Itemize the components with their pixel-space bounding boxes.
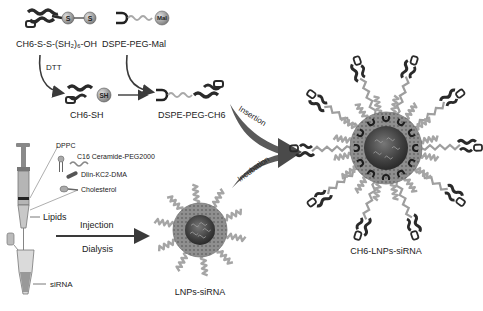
syringe-icon [16,143,30,258]
peg-ch6-chain [364,180,376,219]
peg-chain [159,240,176,252]
ch6-aptamer-icon [353,215,371,241]
dspe-anchor-icon [116,13,127,23]
lipid-peg-label: C16 Ceramide-PEG2000 [77,153,155,160]
dialysis-label: Dialysis [82,244,114,254]
ch6-sh-molecule: SH [66,86,111,103]
dspe-peg-ch6-molecule [156,81,223,100]
peg-lipid-icon [70,162,88,166]
peg-chain [356,177,367,193]
ch6-lnp-label: CH6-LNPs-siRNA [350,246,422,256]
ch6-aptamer-icon [405,214,423,240]
leader-cholesterol [30,190,78,210]
incubation-label: Incubation [236,155,271,184]
dtt-arrow [40,55,62,93]
peg-chain [224,209,241,221]
injection-label: Injection [80,220,114,230]
peg-chain [177,253,188,272]
ch6-ss-molecule: S S [26,10,96,27]
reactant-2-label: DSPE-PEG-Mal [102,39,166,49]
peg-chain [168,93,192,97]
ch6-aptamer-icon [349,56,367,82]
big-arrow-head [278,138,302,168]
leader-dppc [30,146,58,198]
ch6-aptamer-icon [304,89,330,112]
peg-ch6-chain [312,146,352,151]
ch6-aptamer-icon [66,86,92,103]
lipid-dlin-label: Dlin-KC2-DMA [81,171,127,178]
peg-chain [128,16,152,20]
lipids-label: Lipids [43,212,67,222]
sirna-core [364,126,408,170]
mal-to-product-arrow [127,55,152,92]
lipid-cholesterol-label: Cholesterol [81,186,117,193]
intermediate-label: CH6-SH [70,110,104,120]
peg-chain [420,153,438,160]
dspe-peg-mal-molecule: Mal [116,11,169,25]
maleimide-node-label: Mal [157,15,167,21]
peg-chain [405,177,418,191]
lnp-label: LNPs-siRNA [175,287,226,297]
peg-chain [201,256,208,276]
peg-ch6-chain [396,77,408,116]
ch6-aptamer-icon [26,10,62,27]
ch6-aptamer-icon [401,54,419,80]
lipid-dppc-label: DPPC [56,142,75,149]
lnp-sirna-particle [154,185,245,276]
peg-chain [218,249,233,264]
diagram-canvas: S S CH6-S-S-(SH₂)₆-OH Mal DSPE-PEG-Mal D… [0,0,483,311]
sulfur-node-2-label: S [88,15,93,22]
ch6-aptamer-icon [442,184,468,207]
peg-chain [334,153,351,161]
peg-chain [154,219,174,226]
peg-chain [225,234,245,241]
sirna-label: siRNA [50,280,73,289]
peg-chain [334,136,352,143]
dlin-kc2-dma-icon [66,171,79,180]
ch6-lnp-sirna-particle [290,54,482,241]
dtt-label: DTT [46,63,62,72]
tube-icon [7,233,34,294]
product-label: DSPE-PEG-CH6 [158,110,226,120]
thiol-node-label: SH [99,92,108,99]
reactant-1-label: CH6-S-S-(SH₂)₆-OH [16,39,97,49]
peg-chain [167,196,182,211]
peg-ch6-chain [420,145,460,150]
sulfur-node-1-label: S [66,15,71,22]
peg-chain [406,103,417,119]
peg-chain [192,185,199,205]
peg-chain [213,189,224,208]
dspe-anchor-icon [156,90,167,100]
peg-chain [355,104,368,118]
dppc-icon [58,156,64,172]
ch6-aptamer-icon [458,140,482,151]
ch6-aptamer-icon [194,81,223,97]
peg-chain [420,135,437,143]
